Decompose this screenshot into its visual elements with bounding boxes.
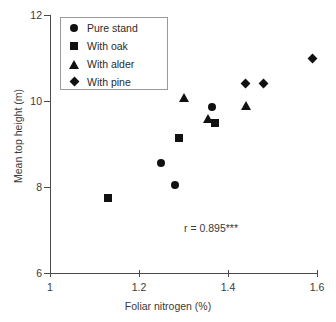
circle-marker (171, 181, 179, 189)
x-axis-line (50, 273, 318, 274)
legend-item-label: With pine (87, 76, 131, 88)
correlation-annotation: r = 0.895*** (184, 222, 238, 234)
x-tick (317, 270, 318, 277)
square-marker (175, 134, 183, 142)
triangle-marker (179, 93, 189, 102)
x-tick (139, 270, 140, 277)
x-tick (228, 270, 229, 277)
circle-marker (70, 24, 78, 32)
y-tick (44, 15, 51, 16)
y-tick-label-text: 6 (16, 268, 42, 278)
diamond-marker (69, 77, 79, 87)
legend-item-label: With oak (87, 40, 128, 52)
x-tick-label: 1.4 (208, 281, 248, 293)
diamond-icon (61, 73, 87, 90)
diamond-marker (259, 79, 269, 89)
y-tick (44, 187, 51, 188)
legend: Pure standWith oakWith alderWith pine (60, 17, 168, 90)
y-axis-line (50, 15, 51, 274)
circle-marker (157, 159, 165, 167)
x-tick-label: 1.2 (119, 281, 159, 293)
triangle-marker (203, 114, 213, 123)
x-axis-label: Foliar nitrogen (%) (0, 300, 336, 312)
legend-item-with-oak[interactable]: With oak (61, 37, 167, 54)
legend-item-label: Pure stand (87, 22, 138, 34)
triangle-icon (61, 55, 87, 72)
circle-marker (208, 103, 216, 111)
legend-item-label: With alder (87, 58, 134, 70)
x-tick-label: 1.6 (297, 281, 336, 293)
triangle-marker (241, 101, 251, 110)
y-tick-label-text: 12 (16, 10, 42, 20)
legend-item-with-pine[interactable]: With pine (61, 73, 167, 90)
square-icon (61, 37, 87, 54)
y-axis-label: Mean top height (m) (12, 66, 24, 206)
x-tick-label: 1 (30, 281, 70, 293)
x-tick (50, 270, 51, 277)
scatter-chart: 121086 11.21.41.6 Mean top height (m) Fo… (0, 0, 336, 322)
y-tick (44, 101, 51, 102)
diamond-marker (308, 53, 318, 63)
legend-item-pure-stand[interactable]: Pure stand (61, 19, 167, 36)
square-marker (70, 42, 78, 50)
circle-icon (61, 19, 87, 36)
square-marker (211, 119, 219, 127)
legend-item-with-alder[interactable]: With alder (61, 55, 167, 72)
triangle-marker (69, 60, 79, 69)
square-marker (104, 194, 112, 202)
diamond-marker (241, 79, 251, 89)
